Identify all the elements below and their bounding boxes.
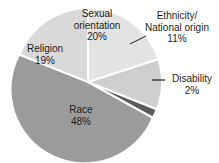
pie-value-disability: 2% (166, 85, 218, 97)
pie-label-ethnicity-line2: National origin (137, 22, 217, 34)
pie-label-religion: Religion 19% (14, 43, 76, 66)
pie-label-race-line1: Race (52, 104, 110, 116)
pie-value-sexual-orientation: 20% (61, 31, 133, 43)
pie-label-ethnicity-national-origin: Ethnicity/ National origin 11% (137, 10, 217, 45)
pie-label-sexual-orientation: Sexual orientation 20% (61, 8, 133, 43)
pie-value-race: 48% (52, 116, 110, 128)
pie-label-sexual-orientation-line1: Sexual (61, 8, 133, 20)
pie-label-disability: Disability 2% (166, 73, 218, 96)
pie-label-religion-line1: Religion (14, 43, 76, 55)
pie-label-disability-line1: Disability (166, 73, 218, 85)
pie-chart: Sexual orientation 20% Ethnicity/ Nation… (0, 0, 219, 163)
pie-label-race: Race 48% (52, 104, 110, 127)
pie-label-ethnicity-line1: Ethnicity/ (137, 10, 217, 22)
pie-value-religion: 19% (14, 55, 76, 67)
pie-value-ethnicity-national-origin: 11% (137, 33, 217, 45)
pie-label-sexual-orientation-line2: orientation (61, 20, 133, 32)
